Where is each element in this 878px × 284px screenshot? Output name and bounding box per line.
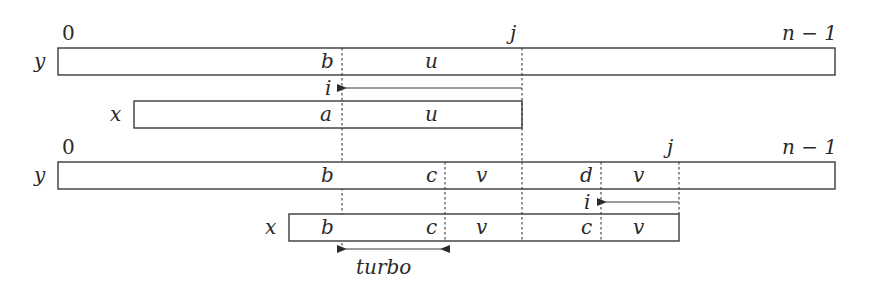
bottom-row-label-x: x [265, 215, 276, 239]
turbo-label: turbo [356, 255, 411, 279]
top-row-label-y: y [33, 49, 46, 73]
bottom-x-segment-v2: v [633, 215, 645, 239]
top-index-j: j [506, 21, 516, 45]
bottom-x-segment-c2: c [581, 215, 592, 239]
top-y-segment-u: u [425, 49, 438, 73]
top-row-label-x: x [110, 102, 121, 126]
top-index-end: n − 1 [782, 21, 837, 45]
bottom-row-label-y: y [33, 163, 46, 187]
top-index-zero: 0 [62, 21, 75, 45]
bottom-y-segment-d: d [580, 163, 593, 187]
top-x-segment-u: u [425, 102, 438, 126]
top-x-segment-a: a [320, 102, 332, 126]
diagram-canvas: 0 j n − 1 y b u i x a u 0 j n − 1 y b c … [0, 0, 878, 284]
bottom-y-segment-b: b [321, 163, 334, 187]
bottom-index-end: n − 1 [782, 135, 837, 159]
top-diagram: 0 j n − 1 y b u i x a u [33, 21, 837, 162]
bottom-y-segment-v1: v [476, 163, 488, 187]
bottom-diagram: 0 j n − 1 y b c v d v i x b c v c v turb… [33, 135, 837, 279]
top-arrow-label-i: i [325, 76, 331, 100]
top-y-segment-b: b [321, 49, 334, 73]
bottom-y-segment-c: c [426, 163, 437, 187]
bottom-y-string-box [58, 162, 835, 189]
bottom-x-segment-v1: v [476, 215, 488, 239]
top-y-string-box [58, 48, 835, 75]
bottom-x-segment-c1: c [426, 215, 437, 239]
bottom-index-zero: 0 [62, 135, 75, 159]
bottom-arrow-label-i: i [584, 190, 590, 214]
bottom-y-segment-v2: v [633, 163, 645, 187]
bottom-index-j: j [663, 135, 673, 159]
bottom-x-segment-b: b [321, 215, 334, 239]
